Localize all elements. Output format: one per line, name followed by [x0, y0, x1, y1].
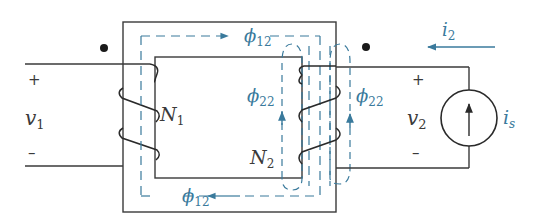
leakage-flux-right	[330, 44, 350, 184]
n2-label: N2	[249, 146, 274, 171]
v1-label: v1	[25, 106, 45, 132]
flux-top-label: ϕ12	[244, 25, 272, 49]
v2-label: v2	[407, 106, 427, 132]
v2-plus: +	[412, 71, 425, 89]
coil-n1	[119, 64, 159, 160]
polarity-dot-right	[362, 43, 370, 51]
coupled-coils-diagram: + – v1 N1 N2 ϕ12 ϕ12 ϕ22 ϕ22 + – v2 i2 i…	[0, 0, 542, 223]
current-source	[441, 90, 497, 146]
is-label: is	[503, 106, 515, 131]
v1-plus: +	[28, 71, 41, 89]
magnetic-core	[123, 22, 336, 212]
left-port-wires	[25, 64, 150, 166]
flux-bottom-label: ϕ12	[182, 185, 210, 209]
diagram-svg: + – v1 N1 N2 ϕ12 ϕ12 ϕ22 ϕ22 + – v2 i2 i…	[0, 0, 542, 223]
polarity-dot-left	[100, 44, 108, 52]
i2-label: i2	[442, 19, 455, 43]
leak-left-label: ϕ22	[247, 85, 275, 109]
n1-label: N1	[159, 103, 184, 128]
v2-minus: –	[412, 144, 420, 162]
v1-minus: –	[28, 144, 36, 162]
leak-right-label: ϕ22	[356, 85, 384, 109]
